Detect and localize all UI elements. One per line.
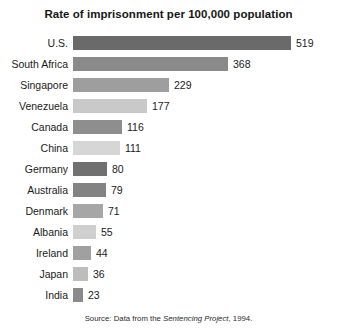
bar-track: 368	[73, 57, 337, 71]
bar-track: 55	[73, 225, 337, 239]
bar	[73, 183, 106, 197]
chart-title: Rate of imprisonment per 100,000 populat…	[0, 8, 337, 20]
bar-category-label: Singapore	[0, 78, 68, 92]
bar-value-label: 116	[127, 120, 144, 134]
bar-track: 23	[73, 288, 337, 302]
bar-value-label: 44	[96, 246, 108, 260]
bar-category-label: Germany	[0, 162, 68, 176]
bar-track: 177	[73, 99, 337, 113]
bar-track: 44	[73, 246, 337, 260]
bar-track: 519	[73, 36, 337, 50]
bar	[73, 162, 107, 176]
bar-category-label: Canada	[0, 120, 68, 134]
bar-row: Albania55	[0, 225, 337, 246]
chart-plot-area: U.S.519South Africa368Singapore229Venezu…	[0, 36, 337, 309]
bar	[73, 99, 147, 113]
bar-track: 71	[73, 204, 337, 218]
bar-category-label: Australia	[0, 183, 68, 197]
bar-track: 79	[73, 183, 337, 197]
bar-row: Germany80	[0, 162, 337, 183]
bar-row: Canada116	[0, 120, 337, 141]
bar	[73, 36, 291, 50]
bar-category-label: South Africa	[0, 57, 68, 71]
bar	[73, 267, 88, 281]
bar-track: 116	[73, 120, 337, 134]
bar-value-label: 79	[111, 183, 123, 197]
bar-row: Singapore229	[0, 78, 337, 99]
bar-row: Australia79	[0, 183, 337, 204]
bar-category-label: U.S.	[0, 36, 68, 50]
bar-category-label: India	[0, 288, 68, 302]
bar	[73, 141, 120, 155]
bar	[73, 288, 83, 302]
bar-category-label: Ireland	[0, 246, 68, 260]
bar-track: 80	[73, 162, 337, 176]
bar-row: Denmark71	[0, 204, 337, 225]
source-publication: Sentencing Project	[163, 314, 228, 323]
bar-value-label: 71	[108, 204, 120, 218]
bar-value-label: 177	[152, 99, 170, 113]
bar-row: Venezuela177	[0, 99, 337, 120]
bar-track: 36	[73, 267, 337, 281]
bar	[73, 78, 169, 92]
source-suffix: , 1994.	[229, 314, 253, 323]
bar-value-label: 55	[101, 225, 113, 239]
bar-value-label: 229	[174, 78, 192, 92]
bar-category-label: Albania	[0, 225, 68, 239]
bar	[73, 246, 91, 260]
bar-row: Ireland44	[0, 246, 337, 267]
imprisonment-rate-bar-chart: Rate of imprisonment per 100,000 populat…	[0, 0, 337, 334]
bar-category-label: Denmark	[0, 204, 68, 218]
bar-value-label: 80	[112, 162, 124, 176]
bar-value-label: 111	[125, 141, 141, 155]
bar-category-label: Japan	[0, 267, 68, 281]
bar-track: 111	[73, 141, 337, 155]
bar-value-label: 519	[296, 36, 314, 50]
bar-value-label: 368	[233, 57, 251, 71]
bar	[73, 120, 122, 134]
bar-track: 229	[73, 78, 337, 92]
bar	[73, 204, 103, 218]
bar-row: Japan36	[0, 267, 337, 288]
bar-row: U.S.519	[0, 36, 337, 57]
bar-row: South Africa368	[0, 57, 337, 78]
bar	[73, 57, 228, 71]
bar-category-label: China	[0, 141, 68, 155]
bar-row: China111	[0, 141, 337, 162]
bar-row: India23	[0, 288, 337, 309]
bar-value-label: 23	[88, 288, 100, 302]
bar-category-label: Venezuela	[0, 99, 68, 113]
source-prefix: Source: Data from the	[85, 314, 163, 323]
source-note: Source: Data from the Sentencing Project…	[0, 314, 337, 323]
bar-value-label: 36	[93, 267, 105, 281]
bar	[73, 225, 96, 239]
